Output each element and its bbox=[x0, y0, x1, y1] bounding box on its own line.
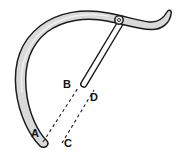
pivot-ring-inner bbox=[118, 19, 121, 22]
pivot-ring bbox=[115, 16, 123, 24]
point-label-d: D bbox=[90, 92, 98, 103]
pivoting-rod-shape bbox=[81, 22, 123, 87]
point-label-b: B bbox=[63, 79, 71, 90]
pivoting-rod bbox=[81, 22, 123, 87]
dashed-reference-lines bbox=[43, 88, 94, 143]
diagram-svg bbox=[0, 0, 177, 159]
point-label-c: C bbox=[64, 138, 72, 149]
dashed-line-A-to-B bbox=[43, 88, 78, 142]
diagram-canvas: A B C D bbox=[0, 0, 177, 159]
point-label-a: A bbox=[31, 128, 39, 139]
